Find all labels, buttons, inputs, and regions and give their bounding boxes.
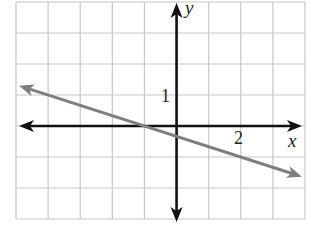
grid xyxy=(16,2,305,219)
x-tick-label-2: 2 xyxy=(234,128,243,149)
axes xyxy=(19,3,302,222)
coordinate-plane xyxy=(0,0,311,227)
y-axis-label: y xyxy=(185,0,193,19)
y-tick-label-1: 1 xyxy=(161,86,170,107)
x-axis-label: x xyxy=(288,130,296,152)
